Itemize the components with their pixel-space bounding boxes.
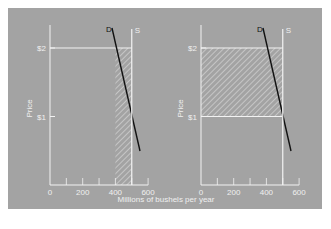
y-tick-label: $2 <box>37 44 46 53</box>
supply-label: S <box>135 26 140 35</box>
hatched-area <box>115 48 131 185</box>
x-tick-label: 400 <box>260 188 274 197</box>
demand-label: D <box>257 25 263 34</box>
x-tick-label: 200 <box>76 188 90 197</box>
y-tick-label: $2 <box>188 44 197 53</box>
figure: 0200400600$1$2PriceDS0200400600$1$2Price… <box>0 0 331 229</box>
y-tick-label: $1 <box>188 113 197 122</box>
x-tick-label: 200 <box>227 188 241 197</box>
shared-x-axis-label: Millions of bushels per year <box>118 195 215 204</box>
x-tick-label: 600 <box>292 188 306 197</box>
y-axis-label: Price <box>25 99 34 118</box>
y-axis-label: Price <box>176 99 185 118</box>
x-tick-label: 0 <box>48 188 53 197</box>
supply-label: S <box>286 26 291 35</box>
demand-label: D <box>106 25 112 34</box>
y-tick-label: $1 <box>37 113 46 122</box>
